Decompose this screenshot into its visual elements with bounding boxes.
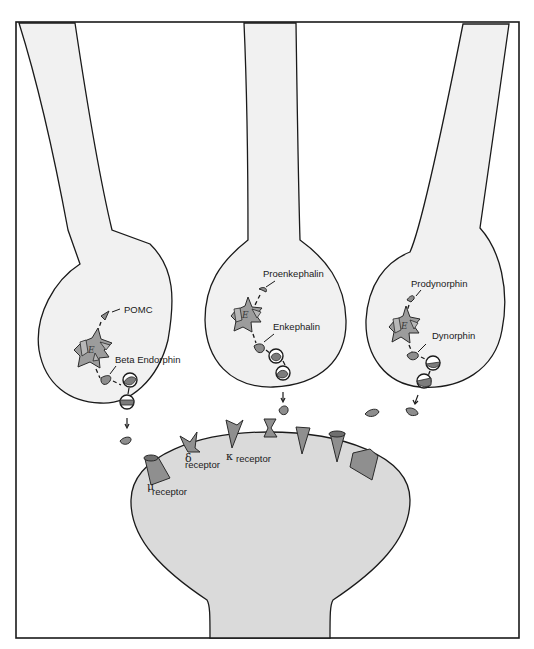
proenkephalin-label: Proenkephalin: [263, 268, 324, 279]
enzyme-letter-middle: E: [241, 310, 249, 320]
kappa-symbol: κ: [226, 450, 233, 463]
vesicle: [123, 373, 137, 387]
dynorphin-label: Dynorphin: [432, 330, 475, 341]
vesicle: [269, 349, 283, 363]
receptor-hourglass: [264, 419, 277, 437]
vesicle: [417, 374, 431, 388]
mu-receptor-label: receptor: [152, 486, 187, 497]
vesicle: [276, 366, 290, 380]
dynorphin-molecule: [407, 352, 418, 360]
released-molecule: [365, 409, 379, 416]
delta-receptor-label: receptor: [185, 459, 220, 470]
beta-endorphin-label: Beta Endorphin: [115, 354, 181, 365]
prodynorphin-label: Prodynorphin: [411, 278, 468, 289]
vesicle: [426, 356, 440, 370]
enzyme-letter-left: E: [87, 345, 95, 355]
released-molecule: [406, 408, 418, 416]
pomc-label: POMC: [124, 304, 153, 315]
released-molecule: [120, 437, 131, 444]
enzyme-letter-right: E: [400, 321, 408, 331]
presynaptic-neuron-middle: [205, 23, 346, 387]
kappa-receptor-label: receptor: [236, 453, 271, 464]
opioid-synapse-diagram: POMC E Beta Endorphin Proenkephalin: [0, 0, 534, 649]
enkephalin-label: Enkephalin: [273, 321, 320, 332]
vesicle: [120, 395, 134, 409]
released-molecule: [279, 406, 288, 415]
axon-middle: [205, 23, 346, 387]
